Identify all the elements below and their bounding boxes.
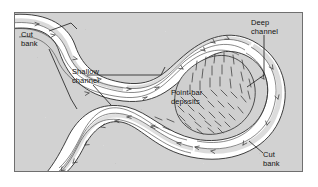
label-deep-channel: Deep channel bbox=[251, 19, 278, 36]
meander-diagram-svg bbox=[15, 13, 302, 171]
label-cut-bank-right: Cut bank bbox=[263, 151, 280, 168]
label-point-bar-deposits: Point-bar deposits bbox=[171, 89, 202, 106]
label-shallow-channel: Shallow channel bbox=[72, 68, 99, 85]
diagram-frame: Cut bank Shallow channel Point-bar depos… bbox=[14, 12, 303, 172]
label-cut-bank-left: Cut bank bbox=[21, 31, 38, 48]
figure-root: Cut bank Shallow channel Point-bar depos… bbox=[0, 0, 318, 187]
